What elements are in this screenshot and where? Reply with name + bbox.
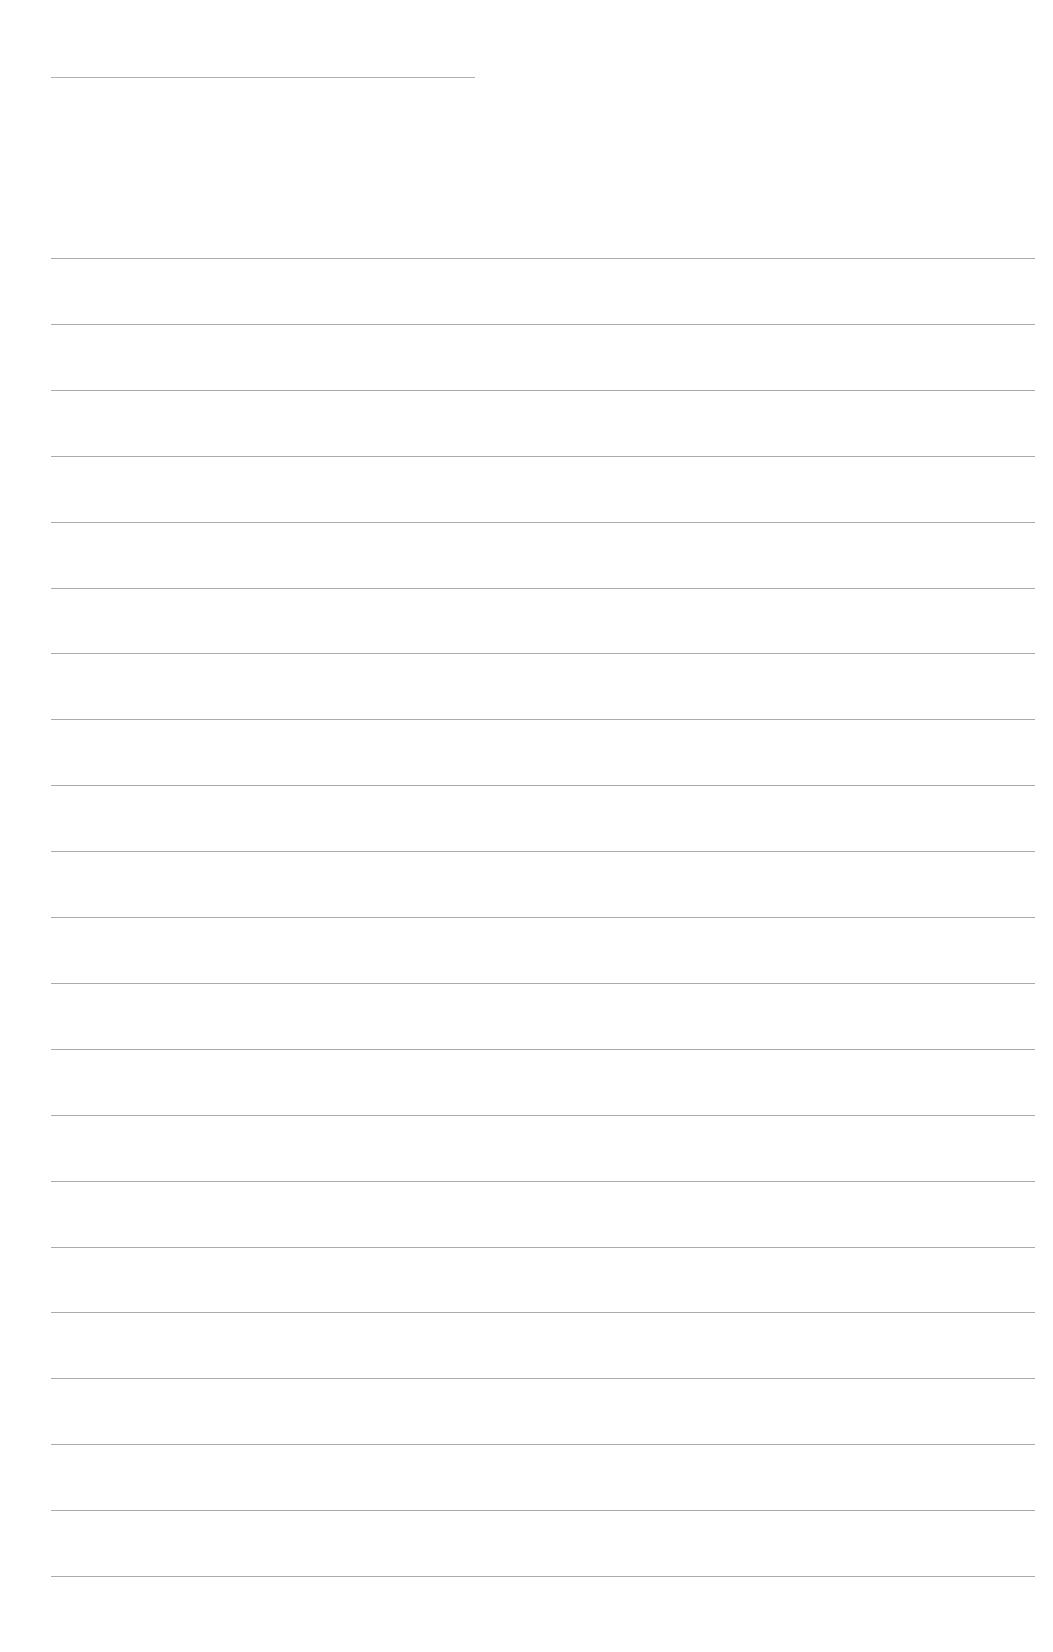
ruled-line xyxy=(51,588,1035,589)
ruled-line xyxy=(51,785,1035,786)
ruled-line xyxy=(51,390,1035,391)
ruled-line xyxy=(51,1312,1035,1313)
ruled-line xyxy=(51,1378,1035,1379)
ruled-line xyxy=(51,1049,1035,1050)
ruled-line xyxy=(51,983,1035,984)
ruled-line xyxy=(51,324,1035,325)
ruled-line xyxy=(51,851,1035,852)
ruled-line xyxy=(51,522,1035,523)
ruled-line xyxy=(51,719,1035,720)
ruled-line xyxy=(51,917,1035,918)
ruled-line xyxy=(51,456,1035,457)
ruled-line xyxy=(51,1181,1035,1182)
lined-paper-page xyxy=(0,0,1053,1652)
ruled-line xyxy=(51,1510,1035,1511)
ruled-line xyxy=(51,1247,1035,1248)
ruled-line xyxy=(51,1576,1035,1577)
ruled-line xyxy=(51,653,1035,654)
ruled-line xyxy=(51,1444,1035,1445)
ruled-line xyxy=(51,258,1035,259)
header-rule xyxy=(51,77,475,78)
ruled-line xyxy=(51,1115,1035,1116)
